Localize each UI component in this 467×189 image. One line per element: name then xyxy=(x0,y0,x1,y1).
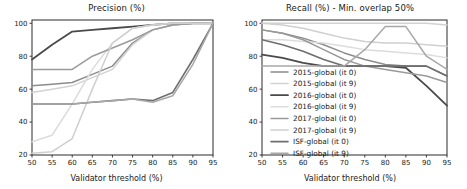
plot-area-precision: 5055606570758085909520406080100 xyxy=(0,0,233,189)
svg-text:70: 70 xyxy=(108,159,117,167)
svg-text:55: 55 xyxy=(278,159,287,167)
x-axis-label-recall: Validator threshold (%) xyxy=(233,174,467,183)
svg-text:65: 65 xyxy=(88,159,97,167)
svg-text:60: 60 xyxy=(68,159,77,167)
series-line xyxy=(32,23,213,69)
svg-text:80: 80 xyxy=(249,53,258,61)
legend-label: 2016-global (it 0) xyxy=(293,91,356,100)
svg-text:90: 90 xyxy=(188,159,197,167)
svg-text:100: 100 xyxy=(14,20,27,28)
legend-label: 2016-global (it 9) xyxy=(293,102,356,111)
svg-text:80: 80 xyxy=(381,159,390,167)
svg-text:40: 40 xyxy=(249,118,258,126)
svg-text:70: 70 xyxy=(340,159,349,167)
legend-label: 2017-global (it 0) xyxy=(293,114,356,123)
svg-text:75: 75 xyxy=(360,159,369,167)
svg-text:95: 95 xyxy=(443,159,452,167)
chart-panel-precision: Precision (%) 50556065707580859095204060… xyxy=(0,0,233,189)
chart-panel-recall: Recall (%) - Min. overlap 50% 5055606570… xyxy=(233,0,467,189)
series-line xyxy=(262,23,447,25)
svg-text:50: 50 xyxy=(28,159,37,167)
svg-text:60: 60 xyxy=(19,86,28,94)
svg-text:65: 65 xyxy=(319,159,328,167)
svg-text:60: 60 xyxy=(299,159,308,167)
svg-text:100: 100 xyxy=(244,20,257,28)
svg-text:20: 20 xyxy=(19,151,28,159)
svg-text:50: 50 xyxy=(258,159,267,167)
legend-label: ISF-global (it 0) xyxy=(293,137,349,146)
figure-root: Precision (%) 50556065707580859095204060… xyxy=(0,0,467,189)
plot-area-recall: 50556065707580859095204060801002015-glob… xyxy=(233,0,467,189)
legend-label: 2015-global (it 9) xyxy=(293,79,356,88)
series-line xyxy=(32,23,213,92)
svg-text:85: 85 xyxy=(168,159,177,167)
x-axis-label-precision: Validator threshold (%) xyxy=(0,174,233,183)
svg-text:80: 80 xyxy=(19,53,28,61)
svg-text:85: 85 xyxy=(401,159,410,167)
svg-text:80: 80 xyxy=(148,159,157,167)
series-line xyxy=(262,40,447,58)
svg-text:40: 40 xyxy=(19,118,28,126)
svg-text:55: 55 xyxy=(48,159,57,167)
legend-label: 2015-global (it 0) xyxy=(293,68,356,77)
legend-label: 2017-global (it 9) xyxy=(293,126,356,135)
svg-text:90: 90 xyxy=(422,159,431,167)
legend-label: ISF-global (it 9) xyxy=(293,149,349,158)
svg-text:60: 60 xyxy=(249,86,258,94)
svg-text:75: 75 xyxy=(128,159,137,167)
svg-text:20: 20 xyxy=(249,151,258,159)
svg-text:95: 95 xyxy=(209,159,218,167)
